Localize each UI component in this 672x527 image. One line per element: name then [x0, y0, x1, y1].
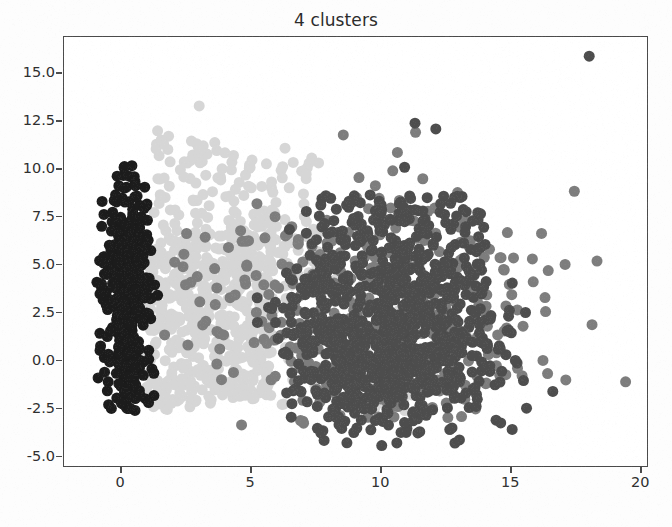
x-tick-mark [380, 467, 381, 473]
y-tick-label: 5.0 [32, 256, 55, 272]
y-tick-mark [56, 456, 62, 457]
y-tick-mark [56, 312, 62, 313]
x-tick-label: 20 [631, 474, 649, 490]
y-tick-label: -2.5 [27, 400, 55, 416]
y-tick-label: 15.0 [23, 64, 55, 80]
x-tick-label: 5 [246, 474, 255, 490]
y-tick-label: -5.0 [27, 448, 55, 464]
x-tick-mark [250, 467, 251, 473]
y-tick-mark [56, 264, 62, 265]
y-tick-mark [56, 408, 62, 409]
figure-canvas: 4 clusters -5.0-2.50.02.55.07.510.012.51… [0, 0, 672, 527]
x-tick-mark [120, 467, 121, 473]
x-tick-mark [510, 467, 511, 473]
chart-title: 4 clusters [0, 10, 672, 30]
y-tick-mark [56, 72, 62, 73]
y-axis-tick-labels: -5.0-2.50.02.55.07.510.012.515.0 [0, 0, 55, 527]
y-tick-label: 0.0 [32, 352, 55, 368]
scatter-points-layer [64, 37, 648, 467]
y-tick-mark [56, 360, 62, 361]
x-tick-label: 10 [371, 474, 389, 490]
x-tick-label: 0 [116, 474, 125, 490]
y-tick-label: 2.5 [32, 304, 55, 320]
plot-area[interactable] [63, 36, 648, 467]
y-tick-label: 7.5 [32, 208, 55, 224]
y-tick-label: 10.0 [23, 160, 55, 176]
x-tick-mark [640, 467, 641, 473]
y-tick-mark [56, 168, 62, 169]
y-tick-label: 12.5 [23, 112, 55, 128]
y-tick-mark [56, 216, 62, 217]
y-tick-mark [56, 120, 62, 121]
x-tick-label: 15 [501, 474, 519, 490]
